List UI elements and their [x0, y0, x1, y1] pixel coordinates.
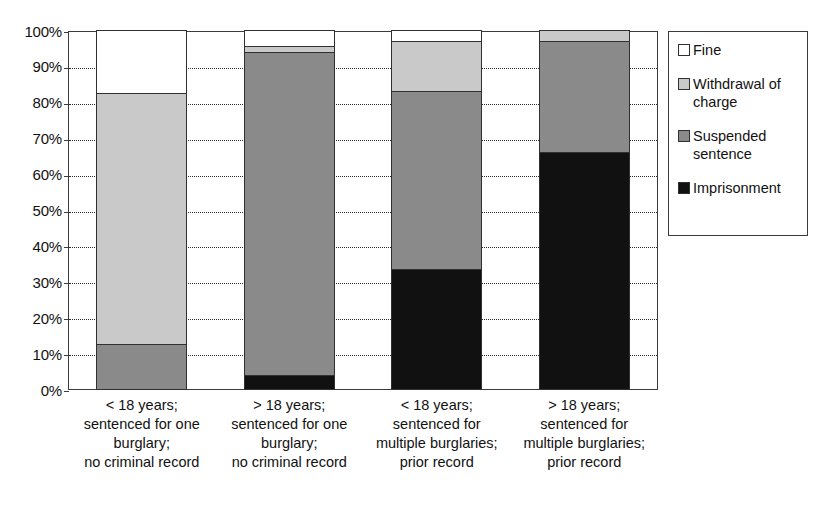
- bar-segment[interactable]: [391, 30, 482, 42]
- bar-segment[interactable]: [391, 269, 482, 390]
- legend-item[interactable]: Fine: [678, 41, 807, 59]
- bar-segment[interactable]: [244, 374, 335, 390]
- y-tick-label: 90%: [2, 59, 62, 74]
- legend-swatch-icon: [678, 182, 690, 194]
- bar-segment[interactable]: [96, 30, 187, 94]
- x-axis-label: > 18 years;sentenced formultiple burglar…: [511, 396, 659, 472]
- stacked-bar-chart: 100%90%80%70%60%50%40%30%20%10%0% < 18 y…: [0, 0, 818, 511]
- legend-swatch-icon: [678, 78, 690, 90]
- x-axis-label-line: < 18 years;: [68, 396, 216, 415]
- legend-item[interactable]: Withdrawal of charge: [678, 75, 807, 111]
- bar-segment[interactable]: [244, 51, 335, 375]
- legend-swatch-icon: [678, 44, 690, 56]
- bars-layer: [68, 31, 658, 390]
- x-axis-label-line: < 18 years;: [363, 396, 511, 415]
- x-axis-label-line: sentenced for one: [68, 415, 216, 434]
- y-axis: 100%90%80%70%60%50%40%30%20%10%0%: [0, 31, 68, 390]
- legend-label: Suspended sentence: [693, 127, 805, 163]
- legend-item[interactable]: Imprisonment: [678, 179, 807, 197]
- bar-segment[interactable]: [244, 30, 335, 47]
- y-tick-label: 0%: [2, 383, 62, 398]
- bar-segment[interactable]: [96, 344, 187, 390]
- x-axis-label-line: sentenced for: [511, 415, 659, 434]
- y-tick-label: 40%: [2, 239, 62, 254]
- bar-column[interactable]: [96, 31, 187, 390]
- x-axis-label-line: multiple burglaries;: [511, 434, 659, 453]
- bar-segment[interactable]: [96, 93, 187, 346]
- x-axis-label-line: burglary;: [216, 434, 364, 453]
- x-axis-label-line: burglary;: [68, 434, 216, 453]
- y-tick-label: 70%: [2, 131, 62, 146]
- x-axis-label-line: no criminal record: [216, 453, 364, 472]
- x-axis-label: > 18 years;sentenced for oneburglary;no …: [216, 396, 364, 472]
- bar-segment[interactable]: [539, 152, 630, 390]
- legend-label: Fine: [693, 41, 721, 59]
- x-axis-label-line: multiple burglaries;: [363, 434, 511, 453]
- x-axis-label-line: > 18 years;: [511, 396, 659, 415]
- bar-segment[interactable]: [539, 41, 630, 153]
- bar-column[interactable]: [244, 31, 335, 390]
- x-axis-label-line: sentenced for: [363, 415, 511, 434]
- y-tick-mark: [64, 391, 69, 392]
- chart-legend: FineWithdrawal of chargeSuspended senten…: [668, 31, 808, 236]
- x-axis-category-labels: < 18 years;sentenced for oneburglary;no …: [68, 396, 658, 496]
- x-axis-label: < 18 years;sentenced formultiple burglar…: [363, 396, 511, 472]
- x-axis-label-line: sentenced for one: [216, 415, 364, 434]
- bar-segment[interactable]: [391, 41, 482, 92]
- x-axis-label: < 18 years;sentenced for oneburglary;no …: [68, 396, 216, 472]
- y-tick-label: 100%: [2, 24, 62, 39]
- legend-item[interactable]: Suspended sentence: [678, 127, 807, 163]
- x-axis-label-line: prior record: [363, 453, 511, 472]
- legend-label: Imprisonment: [693, 179, 781, 197]
- bar-segment[interactable]: [539, 30, 630, 42]
- x-axis-label-line: prior record: [511, 453, 659, 472]
- bar-column[interactable]: [391, 31, 482, 390]
- x-axis-label-line: > 18 years;: [216, 396, 364, 415]
- y-tick-label: 30%: [2, 275, 62, 290]
- y-tick-label: 10%: [2, 347, 62, 362]
- legend-label: Withdrawal of charge: [693, 75, 805, 111]
- bar-segment[interactable]: [391, 91, 482, 270]
- y-tick-label: 50%: [2, 203, 62, 218]
- y-tick-label: 80%: [2, 95, 62, 110]
- x-axis-label-line: no criminal record: [68, 453, 216, 472]
- y-tick-label: 60%: [2, 167, 62, 182]
- legend-swatch-icon: [678, 130, 690, 142]
- bar-column[interactable]: [539, 31, 630, 390]
- y-tick-label: 20%: [2, 311, 62, 326]
